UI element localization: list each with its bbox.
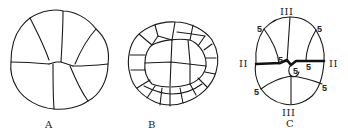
plane-label-right: II [329,58,338,69]
label-a: A [44,119,53,130]
cell-number: 5 [317,24,322,34]
plane-label-top: III [280,6,293,17]
figure-c: III III II II 5 5 5 5 5 5 5 C [239,6,338,129]
cell-number: 5 [306,62,311,72]
label-b: B [148,119,155,130]
cell-number: 5 [254,87,259,97]
figure-b: B [128,22,217,130]
cell-number: 5 [322,83,327,93]
plane-label-left: II [239,58,248,69]
cell-number: 5 [278,55,283,65]
cell-number: 5 [257,24,262,34]
cleavage-diagram: A B [0,0,348,137]
cell-number: 5 [293,66,298,76]
plane-label-bottom: III [282,107,295,118]
figure-a: A [11,10,109,130]
label-c: C [286,118,294,129]
